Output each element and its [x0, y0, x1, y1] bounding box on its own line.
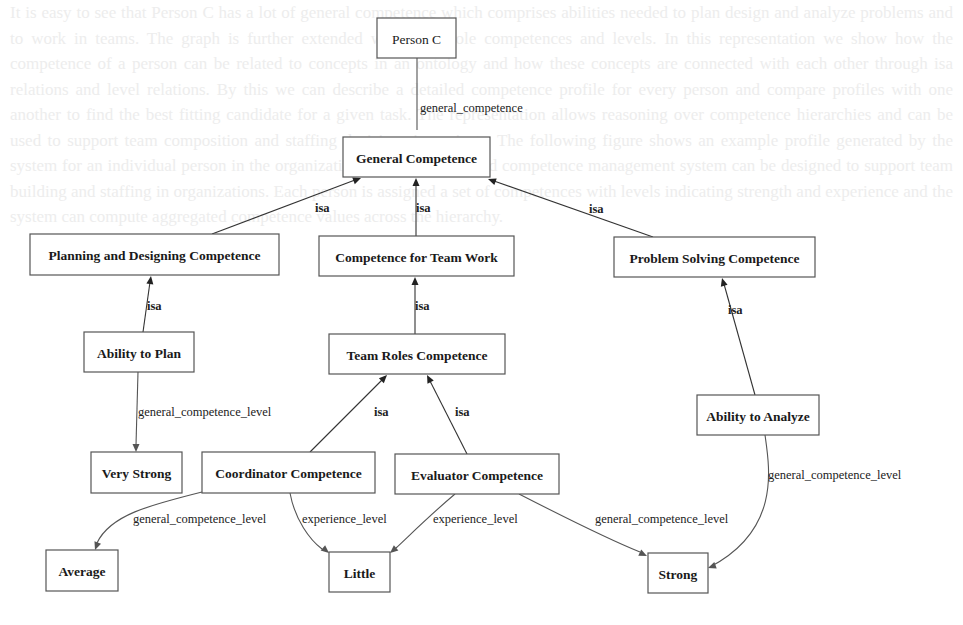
edge-coordinator-to-little: experience_level [290, 493, 387, 556]
node-problem-solving: Problem Solving Competence [614, 237, 815, 277]
node-label: Very Strong [102, 466, 172, 481]
node-label: Person C [392, 32, 441, 47]
node-team-work: Competence for Team Work [319, 236, 514, 276]
edge-line [724, 284, 755, 395]
node-ability-plan: Ability to Plan [84, 332, 194, 372]
edge-label: isa [416, 201, 431, 215]
edge-label: experience_level [302, 512, 387, 526]
arrowhead-icon [146, 276, 154, 285]
edge-evaluator-to-team_roles: isa [424, 373, 470, 454]
edge-team_roles-to-team_work: isa [412, 277, 431, 334]
arrowhead-icon [638, 549, 648, 559]
node-label: Evaluator Competence [411, 468, 543, 483]
node-label: Little [344, 566, 376, 581]
edge-line [310, 380, 382, 452]
edge-label: isa [455, 405, 470, 419]
arrowhead-icon [133, 444, 140, 452]
edge-ability_analyze-to-problem_solving: isa [719, 277, 755, 395]
edge-planning_designing-to-general_competence: isa [212, 175, 362, 234]
edge-problem_solving-to-general_competence: isa [487, 176, 653, 237]
node-planning-designing: Planning and Designing Competence [30, 234, 279, 275]
node-very-strong: Very Strong [91, 452, 182, 493]
node-label: Strong [659, 567, 698, 582]
node-label: Average [59, 564, 106, 579]
edge-evaluator-to-strong: general_competence_level [519, 494, 729, 559]
edge-label: isa [147, 299, 162, 313]
node-person-c: Person C [377, 18, 456, 58]
edge-ability_plan-to-very_strong: general_competence_level [133, 372, 272, 452]
edge-coordinator-to-team_roles: isa [310, 373, 389, 452]
node-ability-analyze: Ability to Analyze [697, 395, 819, 435]
node-label: General Competence [356, 151, 477, 166]
arrowhead-icon [413, 178, 420, 186]
node-label: Problem Solving Competence [630, 251, 800, 266]
edge-ability_analyze-to-strong: general_competence_level [707, 435, 902, 571]
edge-line [212, 180, 355, 234]
edge-label: isa [374, 405, 389, 419]
node-strong: Strong [648, 553, 708, 593]
node-average: Average [46, 550, 118, 591]
node-general-competence: General Competence [343, 137, 490, 177]
node-coordinator: Coordinator Competence [202, 452, 375, 493]
node-little: Little [329, 552, 390, 592]
edge-ability_plan-to-planning_designing: isa [143, 276, 162, 332]
edge-label: isa [315, 201, 330, 215]
node-team-roles: Team Roles Competence [329, 334, 505, 374]
edge-line [494, 181, 653, 237]
edge-label: isa [728, 303, 743, 317]
edge-label: general_competence_level [595, 512, 729, 526]
edge-label: general_competence_level [768, 468, 902, 482]
edge-person_c-to-general_competence: general_competence [414, 58, 524, 145]
edge-line [710, 435, 769, 567]
node-label: Team Roles Competence [346, 348, 487, 363]
node-label: Planning and Designing Competence [49, 248, 261, 263]
edge-label: experience_level [433, 512, 518, 526]
edge-label: general_competence [420, 101, 523, 115]
edge-label: general_competence_level [133, 512, 267, 526]
concept-graph-diagram: general_competenceisaisaisaisaisaisagene… [0, 0, 963, 625]
arrowhead-icon [719, 277, 728, 287]
edge-coordinator-to-average: general_competence_level [92, 492, 267, 551]
edge-label: isa [415, 299, 430, 313]
arrowhead-icon [424, 373, 434, 383]
edge-label: isa [589, 202, 604, 216]
node-label: Ability to Analyze [706, 409, 810, 424]
edge-label: general_competence_level [138, 405, 272, 419]
node-label: Coordinator Competence [215, 466, 361, 481]
edge-evaluator-to-little: experience_level [388, 494, 518, 556]
node-label: Ability to Plan [97, 346, 181, 361]
node-label: Competence for Team Work [335, 250, 498, 265]
node-evaluator: Evaluator Competence [395, 454, 559, 494]
edge-team_work-to-general_competence: isa [413, 178, 432, 236]
arrowhead-icon [412, 277, 419, 285]
